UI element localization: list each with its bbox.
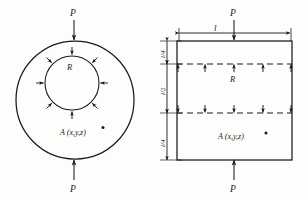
point-marker-right	[265, 132, 268, 135]
point-marker-left	[102, 126, 105, 129]
figure-canvas: P R A (x,y,z) P P	[0, 0, 306, 198]
point-label-right: A (x,y,z)	[217, 132, 244, 141]
radius-label-left: R	[66, 62, 73, 72]
radius-label-right: R	[229, 74, 236, 84]
vdim-label-mid: l/2	[159, 87, 167, 95]
load-label-top-right: P	[229, 8, 236, 18]
point-label-left: A (x,y,z)	[59, 128, 86, 137]
vdim-label-top: l/4	[159, 50, 167, 58]
canvas-background	[0, 0, 306, 198]
load-label-top-left: P	[69, 8, 76, 18]
vdim-label-bottom: l/4	[159, 139, 167, 147]
load-label-bottom-right: P	[229, 184, 236, 194]
load-label-bottom-left: P	[69, 184, 76, 194]
